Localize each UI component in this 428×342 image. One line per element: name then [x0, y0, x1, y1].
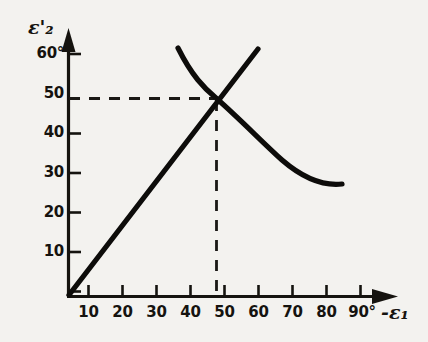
y-tick-label-20: 20	[20, 205, 64, 220]
series-falling-curve	[178, 48, 342, 184]
x-axis-ticks	[89, 285, 361, 296]
axis-lines	[62, 28, 399, 304]
y-axis-title: ε'₂	[28, 18, 54, 37]
y-tick-label-50: 50	[20, 86, 64, 101]
y-axis-title-text: ε'₂	[28, 16, 54, 38]
y-tick-label-60: 60°	[20, 46, 64, 61]
y-tick-label-10: 10	[20, 244, 64, 259]
chart-plot-area	[0, 0, 428, 342]
figure-container: 60° 50 40 30 20 10 10 20 30 40 50 60 70 …	[0, 0, 428, 342]
x-axis-title: -ε₁	[381, 303, 409, 322]
y-tick-label-40: 40	[20, 125, 64, 140]
x-tick-label-90: 90°	[338, 305, 386, 320]
series-rising-line	[69, 49, 258, 295]
y-tick-label-30: 30	[20, 165, 64, 180]
x-axis-title-text: -ε₁	[381, 301, 409, 323]
